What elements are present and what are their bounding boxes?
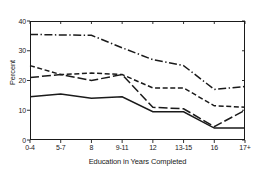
x-tick-label: 5-7: [56, 144, 66, 151]
chart-figure: 010203040 0-45-789-111213-151617+ Educat…: [0, 0, 259, 173]
series-line-series-long-dash: [30, 75, 245, 127]
y-tick-label: 0: [4, 137, 26, 144]
x-tick-label: 17+: [239, 144, 250, 151]
y-axis-title: Percent: [8, 43, 17, 103]
y-tick-label: 10: [4, 107, 26, 114]
axis-ticks: [27, 21, 245, 143]
y-tick-label: 40: [4, 18, 26, 25]
x-tick-label: 0-4: [25, 144, 35, 151]
x-axis-tick-labels: 0-45-789-111213-151617+: [0, 144, 259, 156]
x-axis-title: Education in Years Completed: [30, 157, 245, 166]
x-tick-label: 13-15: [175, 144, 192, 151]
series-line-series-solid: [30, 94, 245, 128]
data-series-group: [30, 34, 245, 128]
x-tick-label: 16: [211, 144, 218, 151]
x-tick-label: 12: [149, 144, 156, 151]
series-line-series-dashed: [30, 66, 245, 108]
x-tick-label: 8: [90, 144, 94, 151]
x-tick-label: 9-11: [116, 144, 129, 151]
